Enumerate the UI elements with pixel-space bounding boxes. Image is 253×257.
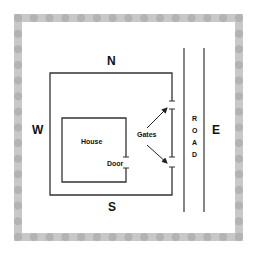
door-label: Door — [107, 160, 123, 167]
gate-arrow-lower — [147, 145, 167, 163]
east-label: E — [212, 124, 220, 136]
road-letter-a: A — [192, 139, 197, 146]
west-label: W — [32, 124, 43, 136]
road-letter-d: D — [192, 151, 197, 158]
house-outline — [62, 118, 126, 182]
road-letter-r: R — [192, 115, 197, 122]
north-label: N — [107, 55, 116, 67]
gate-arrow-upper — [147, 108, 167, 128]
gates-label: Gates — [137, 131, 156, 138]
road-letter-o: O — [192, 127, 197, 134]
south-label: S — [108, 201, 116, 213]
house-label: House — [81, 138, 102, 145]
